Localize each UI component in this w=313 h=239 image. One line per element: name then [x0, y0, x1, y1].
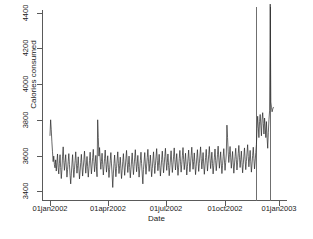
x-tick-label-01jul2002: 01jul2002 — [150, 204, 183, 213]
y-tick-4200 — [37, 48, 42, 49]
y-tick-3400 — [37, 191, 42, 192]
y-tick-label-3600: 3600 — [22, 144, 30, 168]
x-axis-title: Date — [0, 214, 313, 223]
x-tick-label-01jan2003: 01jan2003 — [261, 204, 296, 213]
x-tick-label-01apr2002: 01apr2002 — [90, 204, 126, 213]
series-line-calories-consumed — [50, 4, 273, 187]
y-tick-label-4400: 4400 — [22, 1, 30, 25]
y-axis-line — [42, 10, 43, 201]
x-tick-label-01jan2002: 01jan2002 — [32, 204, 67, 213]
y-tick-label-4200: 4200 — [22, 36, 30, 60]
x-axis-line — [42, 200, 287, 201]
reference-line-2 — [270, 7, 271, 201]
y-tick-3600 — [37, 156, 42, 157]
y-tick-3800 — [37, 120, 42, 121]
y-tick-label-3800: 3800 — [22, 108, 30, 132]
y-tick-4000 — [37, 84, 42, 85]
y-tick-4400 — [37, 13, 42, 14]
x-tick-label-01oct2002: 01oct2002 — [207, 204, 242, 213]
y-tick-label-3400: 3400 — [22, 179, 30, 203]
y-tick-label-4000: 4000 — [22, 72, 30, 96]
chart-container: Calories consumed 4400 4200 4000 3800 36… — [0, 0, 313, 239]
reference-line-1 — [256, 7, 257, 201]
